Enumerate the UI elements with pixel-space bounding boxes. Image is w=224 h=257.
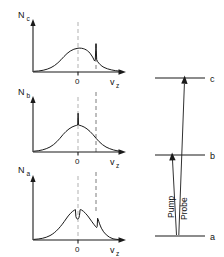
panel-nb-ylabel-subscript: b [27, 92, 31, 99]
panel-na-ylabel: N [18, 165, 25, 175]
panel-nb-ylabel: N [18, 87, 25, 97]
pump-arrow-label: Pump [166, 196, 176, 218]
velocity-distribution-and-level-diagram: N c 0 v z N b 0 v z N a 0 [0, 0, 224, 257]
panel-nc-xlabel-subscript: z [116, 82, 119, 89]
panel-nb-curve [34, 113, 120, 151]
panel-nc-curve [34, 44, 120, 72]
panel-nc-xlabel: v [110, 77, 115, 87]
panel-nb-origin-tick-label: 0 [75, 157, 80, 166]
level-a-label: a [210, 232, 215, 242]
panel-na-xlabel-subscript: z [116, 250, 119, 257]
panel-nc-origin-tick-label: 0 [75, 77, 80, 86]
panel-na-xlabel: v [110, 245, 115, 255]
panel-nc-ylabel-subscript: c [27, 15, 31, 22]
panel-na-ylabel-subscript: a [27, 170, 31, 177]
pump-arrow [169, 153, 176, 236]
panel-na-origin-tick-label: 0 [75, 245, 80, 254]
panel-nb-xlabel-subscript: z [116, 162, 119, 169]
panel-na-curve [34, 210, 120, 240]
level-c-label: c [210, 74, 215, 84]
figure-canvas: N c 0 v z N b 0 v z N a 0 [0, 0, 224, 257]
panel-nb-xlabel: v [110, 157, 115, 167]
probe-arrow-label: Probe [179, 197, 189, 220]
panel-nc-ylabel: N [18, 10, 25, 20]
level-b-label: b [210, 151, 215, 161]
level-diagram: c b a Pump Probe [155, 74, 215, 242]
